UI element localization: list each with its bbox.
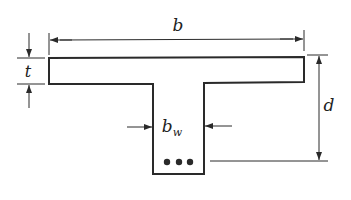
- reinforcement-bars: [164, 159, 193, 165]
- web-width-label: bw: [162, 116, 183, 139]
- effective-depth-dimension: d: [210, 55, 335, 161]
- effective-depth-label: d: [324, 95, 335, 115]
- t-section-outline: [49, 57, 304, 174]
- web-width-dimension: bw: [127, 116, 232, 139]
- flange-width-label: b: [173, 15, 184, 35]
- flange-thickness-dimension: t: [17, 33, 45, 108]
- flange-width-dimension: b: [49, 15, 304, 55]
- flange-thickness-label: t: [25, 62, 32, 81]
- t-beam-diagram: b t d bw: [0, 0, 351, 200]
